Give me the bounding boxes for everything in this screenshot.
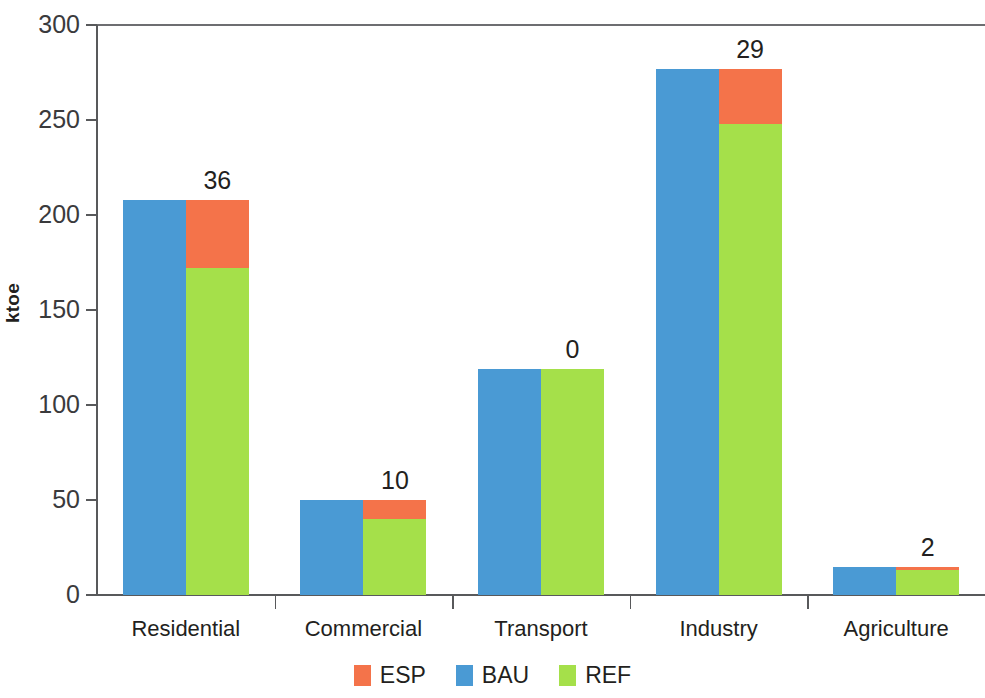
y-tick-label: 300: [38, 10, 80, 38]
bar-segment-ref: [896, 570, 959, 595]
x-axis-tick: [630, 596, 632, 609]
bar-ref-esp-stack: [896, 567, 959, 596]
legend-item[interactable]: BAU: [456, 662, 529, 688]
x-axis-tick: [452, 596, 454, 609]
x-axis-label: Agriculture: [807, 615, 985, 643]
legend-swatch-icon: [559, 665, 576, 686]
legend-label: BAU: [482, 662, 529, 688]
bar-segment-ref: [541, 369, 604, 595]
bar-value-label: 10: [343, 466, 446, 494]
bar-value-label: 36: [166, 166, 269, 194]
legend-item[interactable]: REF: [559, 662, 631, 688]
bar-bau: [833, 567, 896, 596]
top-rule: [97, 24, 985, 26]
bar-segment-esp: [363, 500, 426, 519]
y-tick-label: 50: [52, 485, 80, 513]
bar-ref-esp-stack: [363, 500, 426, 595]
x-axis-label: Transport: [452, 615, 630, 643]
legend-swatch-icon: [456, 665, 473, 686]
x-axis-label: Industry: [630, 615, 808, 643]
y-tick-mark: [86, 214, 97, 216]
legend-label: REF: [585, 662, 631, 688]
y-tick-label: 0: [66, 580, 80, 608]
y-tick-mark: [86, 24, 97, 26]
bar-ref-esp-stack: [186, 200, 249, 595]
x-axis-tick: [275, 596, 277, 609]
x-axis-tick: [807, 596, 809, 609]
bar-value-label: 0: [521, 335, 624, 363]
bar-segment-esp: [896, 567, 959, 571]
y-tick-label: 150: [38, 295, 80, 323]
bar-segment-esp: [186, 200, 249, 268]
bar-bau: [656, 69, 719, 595]
legend-swatch-icon: [354, 665, 371, 686]
y-tick-mark: [86, 119, 97, 121]
bar-bau: [123, 200, 186, 595]
y-tick-mark: [86, 499, 97, 501]
bar-segment-ref: [363, 519, 426, 595]
bar-bau: [300, 500, 363, 595]
x-axis-label: Residential: [97, 615, 275, 643]
y-tick-label: 200: [38, 200, 80, 228]
x-axis-label: Commercial: [275, 615, 453, 643]
y-tick-label: 250: [38, 105, 80, 133]
bar-value-label: 29: [699, 35, 802, 63]
bar-chart: ktoe 050100150200250300 ResidentialComme…: [0, 0, 985, 698]
legend: ESPBAUREF: [0, 662, 985, 688]
y-axis-title: ktoe: [2, 268, 24, 338]
legend-label: ESP: [380, 662, 426, 688]
bar-bau: [478, 369, 541, 595]
y-tick-mark: [86, 594, 97, 596]
bar-value-label: 2: [876, 533, 979, 561]
y-tick-mark: [86, 404, 97, 406]
y-tick-mark: [86, 309, 97, 311]
bar-segment-ref: [186, 268, 249, 595]
legend-item[interactable]: ESP: [354, 662, 426, 688]
bar-ref-esp-stack: [541, 369, 604, 595]
bar-segment-ref: [719, 124, 782, 595]
bar-segment-esp: [719, 69, 782, 124]
y-tick-label: 100: [38, 390, 80, 418]
bar-ref-esp-stack: [719, 69, 782, 595]
